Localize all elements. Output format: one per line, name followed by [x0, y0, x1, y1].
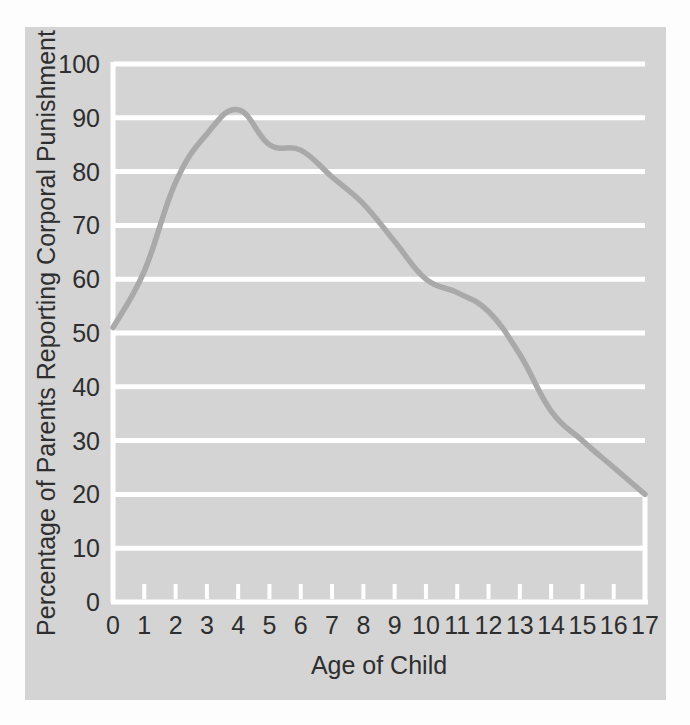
y-tick-label-70: 70 — [72, 211, 100, 239]
line-chart: 0102030405060708090100 01234567891011121… — [0, 0, 690, 725]
y-tick-label-60: 60 — [72, 265, 100, 293]
x-tick-label-11: 11 — [444, 611, 470, 639]
figure-container: 0102030405060708090100 01234567891011121… — [0, 0, 690, 725]
y-axis-title: Percentage of Parents Reporting Corporal… — [32, 30, 60, 636]
x-tick-label-8: 8 — [356, 611, 370, 639]
y-tick-label-20: 20 — [72, 480, 100, 508]
x-tick-label-3: 3 — [200, 611, 214, 639]
data-line-series-0 — [113, 109, 645, 494]
y-tick-label-30: 30 — [72, 427, 100, 455]
x-tick-label-6: 6 — [294, 611, 308, 639]
y-tick-label-90: 90 — [72, 104, 100, 132]
y-tick-label-0: 0 — [86, 588, 100, 616]
x-axis-tick-labels-group: 01234567891011121314151617 — [106, 611, 659, 639]
x-tick-label-14: 14 — [537, 611, 565, 639]
x-tick-label-2: 2 — [169, 611, 183, 639]
x-tick-label-15: 15 — [569, 611, 597, 639]
x-tick-label-10: 10 — [412, 611, 440, 639]
y-tick-label-40: 40 — [72, 373, 100, 401]
x-tick-label-13: 13 — [506, 611, 534, 639]
x-axis-ticks-group — [144, 584, 645, 599]
data-line-group — [113, 109, 645, 494]
x-tick-label-0: 0 — [106, 611, 120, 639]
x-tick-label-7: 7 — [325, 611, 339, 639]
x-tick-label-5: 5 — [263, 611, 277, 639]
y-tick-label-80: 80 — [72, 158, 100, 186]
x-tick-label-17: 17 — [631, 611, 659, 639]
x-tick-label-9: 9 — [388, 611, 402, 639]
gridlines-group — [113, 64, 645, 548]
y-tick-label-10: 10 — [72, 534, 100, 562]
y-tick-label-50: 50 — [72, 319, 100, 347]
x-tick-label-4: 4 — [231, 611, 245, 639]
x-tick-label-16: 16 — [600, 611, 628, 639]
x-tick-label-1: 1 — [137, 611, 151, 639]
x-tick-label-12: 12 — [475, 611, 503, 639]
x-axis-title: Age of Child — [311, 651, 447, 679]
y-tick-label-100: 100 — [58, 50, 100, 78]
y-axis-tick-labels-group: 0102030405060708090100 — [58, 50, 100, 616]
